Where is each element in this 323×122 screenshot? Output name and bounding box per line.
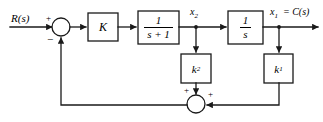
block-label-integrator: 1 s — [228, 11, 263, 44]
block-label-gain-k1: k1 — [264, 54, 293, 83]
signal-label-x1-cs: x1 = C(s) — [270, 7, 309, 20]
block-label-lag: 1 s + 1 — [138, 11, 179, 44]
summing-junction-bottom — [187, 95, 205, 113]
sign-minus-feedback: − — [47, 34, 53, 45]
wire-feedback-to-sum-top — [61, 38, 187, 105]
integrator-numerator: 1 — [240, 15, 252, 27]
sign-plus-input: + — [46, 14, 51, 23]
block-diagram-canvas: R(s) + − K 1 s + 1 1 s x2 x1 = C(s) k2 k… — [0, 0, 323, 122]
sign-plus-k1: + — [208, 90, 213, 99]
wire-k1-to-sum — [207, 83, 279, 105]
integrator-denominator: s — [240, 27, 250, 40]
lag-denominator: s + 1 — [144, 27, 173, 40]
input-label-rs: R(s) — [11, 13, 29, 24]
signal-label-x2: x2 — [190, 7, 198, 20]
summing-junction-top — [52, 18, 70, 36]
block-label-gain-k: K — [88, 13, 118, 41]
sign-plus-k2: + — [184, 86, 189, 95]
lag-numerator: 1 — [153, 15, 165, 27]
block-label-gain-k2: k2 — [181, 54, 211, 83]
